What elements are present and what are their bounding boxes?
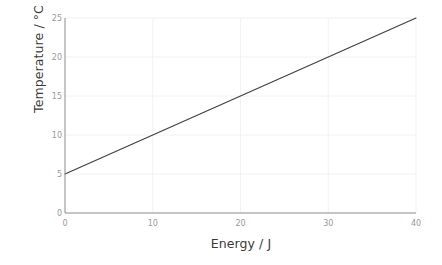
y-tick-label: 0: [40, 209, 62, 218]
x-tick-label: 0: [50, 219, 80, 228]
chart-figure: 25 20 15 10 5 0 0 10 20 30 40 Temperatur…: [0, 0, 442, 265]
x-axis-ticks: 0 10 20 30 40: [0, 219, 442, 231]
x-axis-label: Energy / J: [66, 236, 416, 251]
y-tick-label: 5: [40, 170, 62, 179]
x-tick-label: 20: [226, 219, 256, 228]
x-tick-label: 10: [138, 219, 168, 228]
x-tick-label: 40: [401, 219, 431, 228]
x-tick-label: 30: [313, 219, 343, 228]
y-axis-label: Temperature / °C: [28, 0, 50, 144]
